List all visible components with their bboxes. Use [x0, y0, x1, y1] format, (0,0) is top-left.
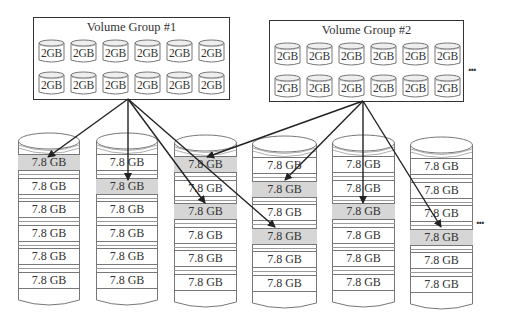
segment-divider [410, 202, 473, 203]
disk-segment: 7.8 GB [332, 227, 395, 244]
disk-size-label: 2GB [38, 47, 65, 59]
logical-disk: 2GB [166, 39, 193, 64]
disk-segment: 7.8 GB [18, 225, 80, 242]
logical-disk: 2GB [306, 74, 333, 99]
logical-disk: 2GB [338, 74, 365, 99]
disk-segment: 7.8 GB [174, 250, 237, 267]
segment-divider [252, 201, 317, 202]
disk-size-label: 2GB [306, 82, 333, 94]
disk-size-label: 2GB [70, 47, 97, 59]
physical-disk-5: 7.8 GB7.8 GB7.8 GB7.8 GB7.8 GB7.8 GB [332, 134, 395, 310]
segment-divider [174, 270, 237, 271]
disk-size-label: 2GB [434, 50, 461, 62]
disk-segment: 7.8 GB [174, 274, 237, 291]
physical-disk-4: 7.8 GB7.8 GB7.8 GB7.8 GB7.8 GB7.8 GB [252, 135, 317, 311]
segment-divider [174, 223, 237, 224]
logical-disk: 2GB [38, 71, 65, 96]
logical-disk: 2GB [434, 42, 461, 67]
logical-disk: 2GB [402, 74, 429, 99]
disk-segment: 7.8 GB [332, 203, 395, 220]
disk-segment: 7.8 GB [18, 248, 80, 265]
logical-disk: 2GB [338, 42, 365, 67]
segment-divider [252, 271, 317, 272]
disk-size-label: 2GB [198, 47, 225, 59]
segment-divider [174, 176, 237, 177]
segment-divider [96, 245, 158, 246]
disk-segment: 7.8 GB [18, 201, 80, 218]
disk-size-label: 2GB [166, 79, 193, 91]
volume-group-1-title: Volume Group #1 [34, 20, 229, 35]
disk-size-label: 2GB [134, 47, 161, 59]
segment-divider [410, 272, 473, 273]
logical-disk: 2GB [38, 39, 65, 64]
logical-disk: 2GB [274, 74, 301, 99]
disk-size-label: 2GB [338, 82, 365, 94]
disk-segment: 7.8 GB [96, 272, 158, 289]
disk-size-label: 2GB [306, 50, 333, 62]
disk-segment: 7.8 GB [252, 228, 317, 245]
disk-size-label: 2GB [370, 50, 397, 62]
disk-segment: 7.8 GB [96, 154, 158, 171]
disk-size-label: 2GB [38, 79, 65, 91]
disk-size-label: 2GB [70, 79, 97, 91]
disk-segment: 7.8 GB [410, 252, 473, 269]
physical-disk-6: 7.8 GB7.8 GB7.8 GB7.8 GB7.8 GB7.8 GB [410, 136, 473, 312]
logical-disk: 2GB [70, 71, 97, 96]
segment-divider [332, 200, 395, 201]
volume-group-2-title: Volume Group #2 [270, 23, 463, 38]
disk-segment: 7.8 GB [18, 154, 80, 171]
disk-segment: 7.8 GB [410, 158, 473, 175]
segment-divider [96, 268, 158, 269]
disk-size-label: 2GB [402, 50, 429, 62]
segment-divider [410, 225, 473, 226]
logical-disk: 2GB [70, 39, 97, 64]
physical-disk-3: 7.8 GB7.8 GB7.8 GB7.8 GB7.8 GB7.8 GB [174, 134, 237, 310]
disk-size-label: 2GB [274, 82, 301, 94]
segment-divider [332, 270, 395, 271]
disk-segment: 7.8 GB [252, 251, 317, 268]
more-volume-groups-ellipsis: ... [468, 62, 476, 72]
segment-divider [174, 200, 237, 201]
disk-segment: 7.8 GB [174, 156, 237, 173]
disk-size-label: 2GB [102, 47, 129, 59]
logical-disk: 2GB [166, 71, 193, 96]
segment-divider [174, 247, 237, 248]
segment-divider [18, 198, 80, 199]
disk-size-label: 2GB [402, 82, 429, 94]
disk-segment: 7.8 GB [174, 180, 237, 197]
disk-segment: 7.8 GB [410, 205, 473, 222]
segment-divider [252, 248, 317, 249]
logical-disk: 2GB [102, 71, 129, 96]
segment-divider [252, 224, 317, 225]
disk-size-label: 2GB [274, 50, 301, 62]
disk-segment: 7.8 GB [410, 229, 473, 246]
segment-divider [18, 174, 80, 175]
disk-segment: 7.8 GB [410, 182, 473, 199]
disk-segment: 7.8 GB [174, 227, 237, 244]
logical-disk: 2GB [274, 42, 301, 67]
disk-segment: 7.8 GB [18, 272, 80, 289]
disk-segment: 7.8 GB [332, 180, 395, 197]
disk-size-label: 2GB [370, 82, 397, 94]
segment-divider [18, 268, 80, 269]
disk-size-label: 2GB [134, 79, 161, 91]
disk-segment: 7.8 GB [18, 178, 80, 195]
logical-disk: 2GB [102, 39, 129, 64]
segment-divider [96, 221, 158, 222]
logical-disk: 2GB [306, 42, 333, 67]
disk-segment: 7.8 GB [252, 157, 317, 174]
disk-segment: 7.8 GB [332, 156, 395, 173]
segment-divider [96, 174, 158, 175]
disk-segment: 7.8 GB [96, 225, 158, 242]
disk-size-label: 2GB [338, 50, 365, 62]
segment-divider [332, 176, 395, 177]
disk-segment: 7.8 GB [252, 181, 317, 198]
segment-divider [410, 249, 473, 250]
disk-segment: 7.8 GB [410, 276, 473, 293]
logical-disk: 2GB [134, 39, 161, 64]
logical-disk: 2GB [198, 71, 225, 96]
logical-disk: 2GB [134, 71, 161, 96]
segment-divider [96, 198, 158, 199]
disk-size-label: 2GB [198, 79, 225, 91]
logical-disk: 2GB [434, 74, 461, 99]
